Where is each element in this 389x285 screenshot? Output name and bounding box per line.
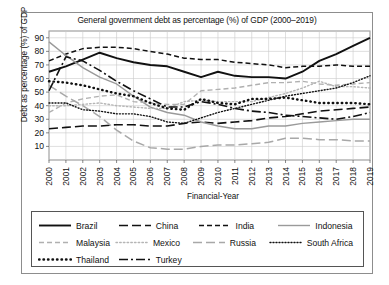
x-axis-tick-label: 2001 xyxy=(61,167,71,186)
legend-swatch-china xyxy=(118,220,152,231)
x-axis-tick-label: 2006 xyxy=(145,167,155,186)
x-axis-tick-label: 2014 xyxy=(281,167,291,186)
y-axis-tick-label: 40 xyxy=(34,101,44,111)
x-axis-tick-label: 2019 xyxy=(365,167,375,186)
chart-figure: General government debt as percentage (%… xyxy=(0,0,389,285)
legend-swatch-indonesia xyxy=(277,220,311,231)
legend-swatch-turkey xyxy=(118,254,152,265)
plot-area-border xyxy=(49,31,370,160)
y-axis-tick-label: 80 xyxy=(34,46,44,56)
x-axis-tick-label: 2012 xyxy=(247,167,257,186)
x-axis-tick-label: 2007 xyxy=(162,167,172,186)
x-axis-tick-label: 2005 xyxy=(128,167,138,186)
legend-item-russia[interactable]: Russia xyxy=(192,237,269,248)
y-axis-tick-label: 20 xyxy=(34,128,44,138)
legend-item-brazil[interactable]: Brazil xyxy=(38,220,118,231)
legend-row: ThailandTurkey xyxy=(38,251,357,268)
legend-item-china[interactable]: China xyxy=(118,220,198,231)
legend-item-thailand[interactable]: Thailand xyxy=(38,254,118,265)
legend-label: Turkey xyxy=(156,255,182,265)
legend-label: Brazil xyxy=(76,221,98,231)
x-axis-tick-label: 2018 xyxy=(348,167,358,186)
x-axis-label: Financial-Year xyxy=(48,192,378,201)
legend-label: China xyxy=(156,221,178,231)
legend-row: MalaysiaMexicoRussiaSouth Africa xyxy=(38,234,357,251)
legend-item-malaysia[interactable]: Malaysia xyxy=(38,237,115,248)
x-axis-tick-label: 2008 xyxy=(179,167,189,186)
x-axis-tick-label: 2016 xyxy=(314,167,324,186)
legend-label: India xyxy=(236,221,255,231)
y-axis-tick-label: 60 xyxy=(34,74,44,84)
y-axis-tick-label: 10 xyxy=(34,141,44,151)
chart-legend: BrazilChinaIndiaIndonesiaMalaysiaMexicoR… xyxy=(31,211,364,267)
y-axis-tick-label: 30 xyxy=(34,114,44,124)
legend-swatch-thailand xyxy=(38,254,72,265)
legend-item-mexico[interactable]: Mexico xyxy=(115,237,192,248)
legend-label: Mexico xyxy=(153,238,180,248)
legend-label: Indonesia xyxy=(315,221,352,231)
x-axis-tick-label: 2013 xyxy=(264,167,274,186)
x-axis-tick-label: 2017 xyxy=(331,167,341,186)
legend-item-india[interactable]: India xyxy=(198,220,278,231)
legend-label: South Africa xyxy=(307,238,353,248)
legend-swatch-mexico xyxy=(115,237,149,248)
legend-label: Malaysia xyxy=(76,238,110,248)
y-axis-tick-label: 90 xyxy=(34,33,44,43)
legend-swatch-brazil xyxy=(38,220,72,231)
legend-item-indonesia[interactable]: Indonesia xyxy=(277,220,357,231)
y-axis-tick-label: 50 xyxy=(34,87,44,97)
x-axis-tick-label: 2000 xyxy=(44,167,54,186)
x-axis-tick-label: 2015 xyxy=(297,167,307,186)
legend-label: Russia xyxy=(230,238,256,248)
legend-item-south-africa[interactable]: South Africa xyxy=(269,237,357,248)
x-axis-tick-label: 2009 xyxy=(196,167,206,186)
legend-swatch-india xyxy=(198,220,232,231)
legend-swatch-south-africa xyxy=(269,237,303,248)
legend-label: Thailand xyxy=(76,255,109,265)
x-axis-tick-label: 2004 xyxy=(112,167,122,186)
x-axis-tick-label: 2011 xyxy=(230,167,240,185)
x-axis-tick-label: 2002 xyxy=(78,167,88,186)
legend-swatch-malaysia xyxy=(38,237,72,248)
y-axis-tick-label: 70 xyxy=(34,60,44,70)
x-axis-tick-label: 2003 xyxy=(95,167,105,186)
legend-swatch-russia xyxy=(192,237,226,248)
legend-item-turkey[interactable]: Turkey xyxy=(118,254,198,265)
x-axis-tick-label: 2010 xyxy=(213,167,223,186)
legend-row: BrazilChinaIndiaIndonesia xyxy=(38,217,357,234)
